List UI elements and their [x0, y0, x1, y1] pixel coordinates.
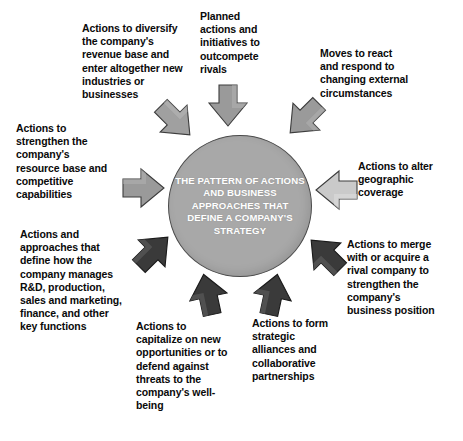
arrow-geographic-coverage [314, 170, 360, 210]
label-capitalize-opportunities: Actions to capitalize on new opportuniti… [136, 320, 234, 412]
label-strengthen-resources: Actions to strengthen the company's reso… [16, 122, 112, 201]
label-planned-actions: Planned actions and initiatives to outco… [200, 10, 272, 76]
arrow-capitalize-opportunities [184, 268, 233, 321]
label-merge-acquire: Actions to merge with or acquire a rival… [347, 238, 445, 317]
label-functional-approaches: Actions and approaches that define how t… [20, 228, 126, 334]
arrow-strengthen-resources [120, 168, 166, 208]
strategy-diagram: THE PATTERN OF ACTIONS AND BUSINESS APPR… [0, 0, 463, 441]
label-geographic-coverage: Actions to alter geographic coverage [358, 160, 450, 200]
hub-circle: THE PATTERN OF ACTIONS AND BUSINESS APPR… [168, 135, 312, 277]
hub-label: THE PATTERN OF ACTIONS AND BUSINESS APPR… [169, 175, 311, 238]
label-strategic-alliances: Actions to form strategic alliances and … [252, 317, 332, 383]
arrow-strategic-alliances [249, 268, 298, 321]
label-react-respond: Moves to react and respond to changing e… [320, 47, 412, 100]
arrow-planned-actions [208, 82, 248, 128]
